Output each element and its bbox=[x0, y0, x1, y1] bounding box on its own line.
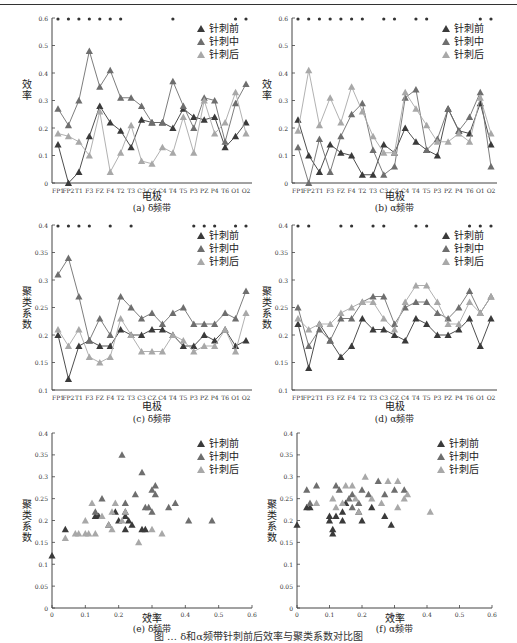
triangle-marker-icon bbox=[442, 232, 450, 239]
data-point-triangle bbox=[222, 309, 229, 315]
data-point-triangle bbox=[242, 80, 249, 86]
legend-entry: 针刺后 bbox=[197, 463, 239, 476]
data-point-triangle bbox=[327, 168, 334, 174]
data-point-triangle bbox=[487, 315, 494, 321]
series-line bbox=[58, 51, 246, 142]
y-axis-title: 聚类系数 bbox=[263, 499, 278, 543]
data-point-triangle bbox=[359, 108, 366, 114]
data-point-triangle bbox=[62, 526, 69, 532]
data-point-triangle bbox=[466, 287, 473, 293]
data-point-triangle bbox=[75, 138, 82, 144]
data-point-triangle bbox=[92, 530, 99, 536]
legend-label: 针刺前 bbox=[454, 229, 484, 242]
y-axis-title: 聚类系数 bbox=[258, 286, 273, 330]
legend-entry: 针刺后 bbox=[437, 463, 479, 476]
y-tick-label: 0.4 bbox=[278, 70, 288, 77]
data-point-triangle bbox=[172, 499, 179, 505]
data-point-triangle bbox=[305, 342, 312, 348]
y-tick-label: 0.25 bbox=[35, 495, 49, 502]
data-point-triangle bbox=[365, 491, 372, 497]
data-point-triangle bbox=[62, 534, 69, 540]
data-point-triangle bbox=[402, 89, 409, 95]
triangle-marker-icon bbox=[197, 232, 205, 239]
data-point-triangle bbox=[380, 171, 387, 177]
data-point-triangle bbox=[349, 504, 356, 510]
y-tick-label: 0.2 bbox=[278, 125, 288, 132]
data-point-triangle bbox=[375, 478, 382, 484]
data-point-triangle bbox=[135, 539, 142, 545]
data-point-triangle bbox=[117, 293, 124, 299]
data-point-triangle bbox=[54, 271, 61, 277]
triangle-marker-icon bbox=[437, 466, 445, 473]
data-point-triangle bbox=[107, 67, 114, 73]
data-point-triangle bbox=[477, 342, 484, 348]
data-point-triangle bbox=[180, 337, 187, 343]
data-point-triangle bbox=[138, 116, 145, 122]
data-point-triangle bbox=[337, 119, 344, 125]
y-tick-label: 0.35 bbox=[35, 451, 49, 458]
y-tick-label: 0.4 bbox=[283, 430, 293, 437]
data-point-triangle bbox=[412, 315, 419, 321]
data-point-triangle bbox=[82, 517, 89, 523]
data-point-triangle bbox=[88, 499, 95, 505]
y-tick-label: 0 bbox=[44, 180, 48, 187]
legend-label: 针刺后 bbox=[454, 48, 484, 61]
data-point-triangle bbox=[75, 293, 82, 299]
data-point-triangle bbox=[65, 375, 72, 381]
data-point-triangle bbox=[466, 298, 473, 304]
y-tick-label: 0.6 bbox=[278, 15, 288, 22]
data-point-triangle bbox=[54, 105, 61, 111]
data-point-triangle bbox=[185, 517, 192, 523]
data-point-triangle bbox=[313, 482, 320, 488]
x-axis-title: 电极 bbox=[292, 398, 497, 413]
data-point-triangle bbox=[339, 508, 346, 514]
y-tick-label: 0.25 bbox=[280, 495, 294, 502]
data-point-triangle bbox=[86, 133, 93, 139]
y-axis-title: 聚类系数 bbox=[18, 286, 33, 330]
significance-marker bbox=[234, 224, 237, 227]
data-point-triangle bbox=[48, 552, 55, 558]
data-point-triangle bbox=[132, 491, 139, 497]
y-axis-title: 效率 bbox=[258, 79, 273, 101]
legend-entry: 针刺前 bbox=[442, 229, 484, 242]
triangle-marker-icon bbox=[197, 245, 205, 252]
y-tick-label: 0.1 bbox=[278, 152, 288, 159]
triangle-marker-icon bbox=[442, 258, 450, 265]
data-point-triangle bbox=[138, 469, 145, 475]
data-point-triangle bbox=[358, 517, 365, 523]
data-point-triangle bbox=[348, 83, 355, 89]
legend-label: 针刺前 bbox=[209, 229, 239, 242]
data-point-triangle bbox=[242, 337, 249, 343]
chart-legend: 针刺前针刺中针刺后 bbox=[197, 437, 239, 476]
data-point-triangle bbox=[327, 141, 334, 147]
significance-marker bbox=[371, 224, 374, 227]
chart-panel-b: 00.10.20.30.40.50.6FP1FP2T1F3FZF4T2T3C3C… bbox=[262, 8, 517, 218]
significance-marker bbox=[468, 224, 471, 227]
data-point-triangle bbox=[152, 482, 159, 488]
x-axis-title: 电极 bbox=[52, 398, 252, 413]
data-point-triangle bbox=[423, 122, 430, 128]
data-point-triangle bbox=[401, 486, 408, 492]
legend-label: 针刺中 bbox=[209, 242, 239, 255]
y-tick-label: 0.2 bbox=[38, 332, 48, 339]
y-tick-label: 0.05 bbox=[35, 583, 49, 590]
y-tick-label: 0.3 bbox=[283, 473, 293, 480]
data-point-triangle bbox=[369, 133, 376, 139]
significance-marker bbox=[382, 224, 385, 227]
data-point-triangle bbox=[222, 119, 229, 125]
data-point-triangle bbox=[369, 146, 376, 152]
chart-panel-f: 00.050.10.150.20.250.30.350.400.10.20.30… bbox=[262, 425, 517, 635]
data-point-triangle bbox=[305, 364, 312, 370]
data-point-triangle bbox=[86, 337, 93, 343]
significance-marker bbox=[109, 224, 112, 227]
data-point-triangle bbox=[339, 517, 346, 523]
data-point-triangle bbox=[303, 486, 310, 492]
data-point-triangle bbox=[128, 122, 135, 128]
data-point-triangle bbox=[242, 309, 249, 315]
data-point-triangle bbox=[128, 144, 135, 150]
data-point-triangle bbox=[117, 149, 124, 155]
legend-entry: 针刺前 bbox=[197, 22, 239, 35]
data-point-triangle bbox=[316, 122, 323, 128]
chart-legend: 针刺前针刺中针刺后 bbox=[197, 22, 239, 61]
legend-entry: 针刺中 bbox=[437, 450, 479, 463]
